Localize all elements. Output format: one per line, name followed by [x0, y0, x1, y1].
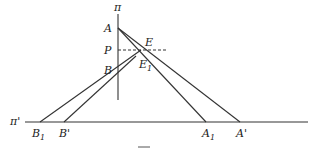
label-a-prime: A' — [235, 127, 247, 140]
label-pi-prime: π' — [9, 115, 20, 128]
line-a-a1 — [118, 28, 206, 122]
label-e: E — [144, 36, 153, 49]
label-b1: B1 — [31, 127, 45, 142]
label-b-prime: B' — [58, 127, 70, 140]
label-a1: A1 — [201, 127, 215, 142]
line-bprime-e1 — [64, 56, 136, 122]
label-e1: E1 — [138, 58, 152, 73]
line-a-aprime — [118, 28, 240, 122]
label-a: A — [103, 22, 112, 35]
label-pi: π — [113, 1, 122, 14]
label-b: B — [103, 64, 112, 77]
line-b1-e — [40, 50, 141, 122]
projection-diagram: π A P B E E1 π' B1 B' A1 A' — [0, 0, 319, 149]
label-p: P — [103, 44, 112, 57]
